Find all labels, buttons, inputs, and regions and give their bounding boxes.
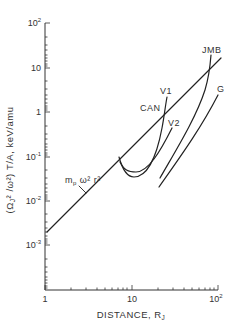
series-v2-curve <box>120 128 172 172</box>
label-jmb: JMB <box>202 45 222 55</box>
x-axis-title: DISTANCE, RJ <box>97 309 166 321</box>
series-jmb-curve <box>160 55 211 178</box>
y-axis-title: (ΩJ² /ω²) T/A, keV/amu <box>4 107 16 214</box>
label-can: CAN <box>140 103 161 113</box>
y-tick-0.01: 10-2 <box>26 195 42 206</box>
x-tick-labels: 1 10 102 <box>42 293 223 304</box>
label-g: G <box>217 84 225 94</box>
y-tick-0.001: 10-3 <box>26 239 42 250</box>
label-v2: V2 <box>168 118 180 128</box>
x-ticks <box>45 285 218 290</box>
series-mp-omega2-r2-line <box>47 58 221 232</box>
x-tick-1: 1 <box>42 294 47 304</box>
x-tick-100: 102 <box>209 293 223 304</box>
y-tick-1: 1 <box>36 107 41 117</box>
curves <box>47 55 221 232</box>
y-tick-10: 10 <box>31 63 41 73</box>
axes <box>45 23 218 290</box>
x-tick-10: 10 <box>127 294 137 304</box>
label-mp-omega2-r2: mp ω² r² <box>65 175 101 186</box>
chart: 102 10 1 10-1 10-2 10-3 1 10 102 DISTANC… <box>0 0 239 328</box>
y-tick-labels: 102 10 1 10-1 10-2 10-3 <box>26 17 42 250</box>
y-tick-100: 102 <box>28 17 42 28</box>
series-g-curve <box>159 95 218 187</box>
curve-labels: mp ω² r² CAN V1 V2 JMB G <box>65 45 225 186</box>
label-v1: V1 <box>160 86 172 96</box>
y-tick-0.1: 10-1 <box>26 151 42 162</box>
y-ticks <box>45 23 50 288</box>
label-leader-line <box>79 186 86 193</box>
